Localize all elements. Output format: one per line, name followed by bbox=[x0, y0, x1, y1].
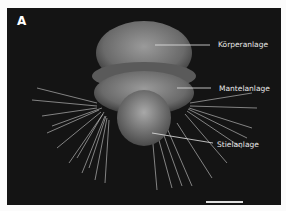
scale-bar bbox=[206, 201, 243, 203]
label-koerperanlage: Körperanlage bbox=[218, 40, 268, 49]
sem-micrograph: A Körperanlage Mantelanlage Stielanlage bbox=[7, 8, 281, 205]
label-mantelanlage: Mantelanlage bbox=[219, 84, 270, 93]
larva-illustration bbox=[7, 8, 281, 205]
panel-label: A bbox=[17, 14, 26, 28]
label-stielanlage: Stielanlage bbox=[217, 140, 259, 149]
